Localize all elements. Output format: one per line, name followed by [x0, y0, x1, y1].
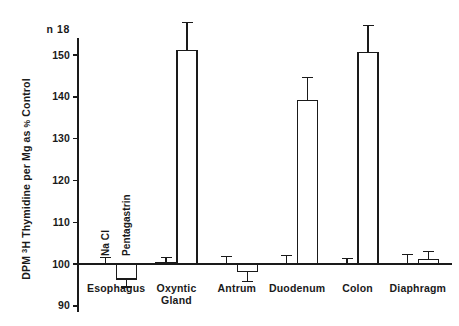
category-labels: EsophagusOxynticGlandAntrumDuodenumColon… — [87, 282, 446, 306]
ylabel-suffix: Control — [20, 78, 32, 119]
category-label-duodenum: Duodenum — [269, 282, 325, 294]
bar-esophagus-pentagastrin — [117, 264, 137, 279]
y-tick-label-90: 90 — [58, 299, 70, 311]
ylabel-prefix: DPM — [20, 253, 32, 280]
category-label-colon: Colon — [342, 282, 373, 294]
y-tick-label-120: 120 — [52, 174, 70, 186]
bar-duodenum-pentagastrin — [298, 100, 318, 264]
category-label-esophagus: Esophagus — [87, 282, 145, 294]
category-label-antrum: Antrum — [218, 282, 257, 294]
series-label-na-cl: Na Cl — [100, 230, 111, 256]
bar-antrum-pentagastrin — [237, 264, 257, 271]
y-tick-label-100: 100 — [52, 258, 70, 270]
category-label-diaphragm: Diaphragm — [390, 282, 447, 294]
category-label-oxyntic-gland: Gland — [161, 294, 192, 306]
bar-oxyntic-gland-pentagastrin — [177, 51, 197, 264]
bar-antrum-na-cl — [216, 264, 236, 265]
bar-esophagus-na-cl — [96, 264, 116, 265]
y-tick-label-150: 150 — [52, 49, 70, 61]
y-axis-title: DPM 3H Thymidine per Mg as % Control — [20, 78, 33, 280]
chart-canvas: 90100110120130140150 EsophagusOxynticGla… — [0, 0, 459, 326]
bar-diaphragm-pentagastrin — [418, 259, 438, 264]
error-bars-layer — [100, 22, 434, 287]
bar-chart-figure: 90100110120130140150 EsophagusOxynticGla… — [0, 0, 459, 326]
y-axis-title-text: DPM 3H Thymidine per Mg as % Control — [20, 78, 33, 280]
bar-colon-pentagastrin — [358, 52, 378, 264]
category-label-oxyntic-gland: Oxyntic — [157, 282, 197, 294]
y-tick-label-110: 110 — [53, 216, 70, 228]
ylabel-middle: H Thymidine per Mg as — [20, 127, 32, 248]
n-annotation: n 18 — [47, 23, 70, 35]
series-labels: Na ClPentagastrin — [100, 194, 132, 256]
bars-layer — [96, 51, 439, 279]
bar-diaphragm-na-cl — [397, 264, 417, 265]
y-axis-tick-labels: 90100110120130140150 — [52, 49, 70, 312]
y-tick-label-130: 130 — [52, 132, 70, 144]
n-annotation-text: n 18 — [47, 23, 70, 35]
series-label-pentagastrin: Pentagastrin — [121, 194, 132, 256]
y-tick-label-140: 140 — [52, 90, 70, 102]
